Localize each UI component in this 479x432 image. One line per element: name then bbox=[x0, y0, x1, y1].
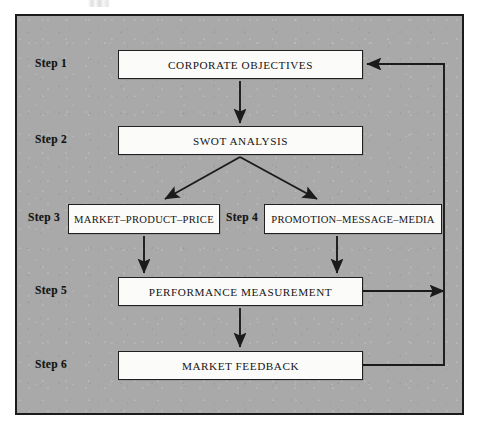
step-label-1: Step 1 bbox=[35, 57, 67, 69]
step-label-3: Step 3 bbox=[28, 211, 60, 223]
cropped-caption-artifact bbox=[88, 0, 110, 7]
step-label-2: Step 2 bbox=[35, 133, 67, 145]
node-market-product-price[interactable]: MARKET–PRODUCT–PRICE bbox=[68, 204, 220, 234]
figure-root: Step 1 CORPORATE OBJECTIVES Step 2 SWOT … bbox=[0, 0, 479, 432]
step-label-6: Step 6 bbox=[35, 358, 67, 370]
node-swot-analysis[interactable]: SWOT ANALYSIS bbox=[118, 126, 363, 155]
node-performance-measurement[interactable]: PERFORMANCE MEASUREMENT bbox=[118, 277, 363, 306]
step-label-4: Step 4 bbox=[226, 211, 258, 223]
node-market-feedback[interactable]: MARKET FEEDBACK bbox=[118, 351, 363, 380]
node-corporate-objectives[interactable]: CORPORATE OBJECTIVES bbox=[118, 50, 363, 79]
node-promotion-message-media[interactable]: PROMOTION–MESSAGE–MEDIA bbox=[264, 204, 442, 234]
step-label-5: Step 5 bbox=[35, 284, 67, 296]
